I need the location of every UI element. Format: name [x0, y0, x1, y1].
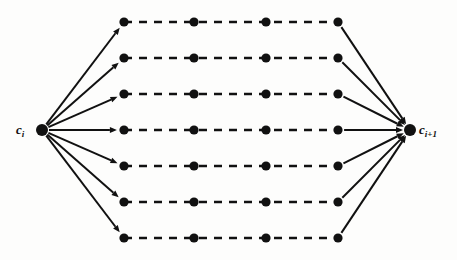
- state-node-r3-c1: [189, 125, 198, 134]
- state-node-r0-c2: [261, 17, 270, 26]
- fan-in-edge-6-shaft: [46, 136, 115, 227]
- fan-out-edge-0-shaft: [341, 27, 402, 118]
- state-node-r5-c3: [333, 197, 342, 206]
- state-node-r5-c1: [189, 197, 198, 206]
- state-node-r6-c2: [261, 233, 270, 242]
- start-label-base: c: [16, 122, 22, 137]
- state-node-r0-c3: [333, 17, 342, 26]
- state-node-r2-c2: [261, 89, 270, 98]
- state-node-r6-c3: [333, 233, 342, 242]
- end-node: [404, 124, 416, 136]
- fan-in-edge-1-shaft: [47, 67, 113, 125]
- state-node-r3-c2: [261, 125, 270, 134]
- state-node-r2-c1: [189, 89, 198, 98]
- state-node-r1-c3: [333, 53, 342, 62]
- state-node-r1-c0: [119, 53, 128, 62]
- end-label-subscript: i+1: [425, 129, 437, 139]
- trellis-figure: ci ci+1: [0, 0, 457, 260]
- fan-out-edge-6-shaft: [341, 142, 402, 233]
- dashed-path-layer: [124, 22, 338, 238]
- start-node: [36, 124, 48, 136]
- end-node-label: ci+1: [419, 123, 437, 136]
- state-node-r1-c1: [189, 53, 198, 62]
- state-node-r4-c3: [333, 161, 342, 170]
- state-node-r2-c3: [333, 89, 342, 98]
- start-label-subscript: i: [22, 129, 25, 139]
- trellis-canvas: [0, 0, 457, 260]
- fan-in-edge-4-shaft: [48, 133, 111, 161]
- state-node-r6-c1: [189, 233, 198, 242]
- state-node-r4-c1: [189, 161, 198, 170]
- fan-in-edge-0-shaft: [46, 33, 115, 124]
- state-node-r4-c2: [261, 161, 270, 170]
- fan-in-edge-5-shaft: [47, 135, 113, 193]
- state-node-r1-c2: [261, 53, 270, 62]
- fan-in-edge-layer: [46, 28, 119, 233]
- state-node-r0-c1: [189, 17, 198, 26]
- fan-in-edge-2-shaft: [48, 100, 111, 128]
- state-node-r2-c0: [119, 89, 128, 98]
- state-node-r3-c0: [119, 125, 128, 134]
- end-label-base: c: [419, 122, 425, 137]
- start-node-label: ci: [16, 123, 24, 136]
- state-node-r5-c2: [261, 197, 270, 206]
- fan-out-edge-3-arrowhead: [396, 127, 403, 133]
- state-node-r4-c0: [119, 161, 128, 170]
- state-node-r5-c0: [119, 197, 128, 206]
- state-node-r0-c0: [119, 17, 128, 26]
- fan-out-edge-layer: [341, 27, 406, 233]
- fan-in-edge-3-arrowhead: [110, 127, 117, 133]
- state-node-r3-c3: [333, 125, 342, 134]
- state-node-r6-c0: [119, 233, 128, 242]
